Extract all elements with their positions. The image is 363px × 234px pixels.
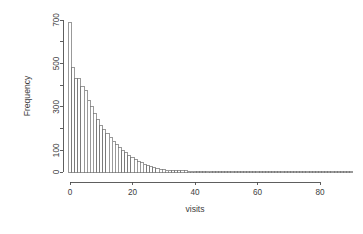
y-axis-title: Frequency [22,75,32,116]
histogram-bar [203,171,206,172]
histogram-bar [125,152,128,172]
x-tick-label: 60 [253,188,263,197]
histogram-bar [81,87,84,172]
histogram-bar [181,171,184,172]
x-tick-label: 40 [190,188,200,197]
histogram-bar [175,171,178,172]
histogram-bar [153,168,156,172]
histogram-bar [134,160,137,172]
histogram-bar [200,171,203,172]
histogram-bar [206,171,209,172]
histogram-bar [187,171,190,172]
y-tick-label: 100 [52,143,61,157]
histogram-bar [112,141,115,172]
histogram-bar [93,114,96,172]
histogram-bar [197,171,200,172]
x-tick-label: 20 [128,188,138,197]
histogram-bar [172,170,175,172]
x-axis-group: 020406080 [68,182,325,197]
histogram-figure: 0100300500700 020406080 visitsFrequency [0,0,363,234]
y-tick-label: 300 [52,100,61,114]
y-axis-group: 0100300500700 [52,13,63,175]
histogram-bar [97,120,100,172]
histogram-bar [90,107,93,172]
histogram-bar [168,170,171,172]
y-tick-label: 700 [52,13,61,27]
histogram-bar [128,155,131,172]
histogram-bar [103,129,106,172]
histogram-bar [209,171,212,172]
histogram-bar [190,171,193,172]
histogram-bar [118,148,121,172]
histogram-bar [106,134,109,172]
histogram-bar [165,170,168,172]
x-tick-label: 0 [68,188,73,197]
histogram-bar [156,169,159,172]
histogram-bar [137,162,140,172]
histogram-bar [115,145,118,172]
histogram-bar [84,90,87,172]
histogram-bar [72,68,75,172]
histogram-bar [159,169,162,172]
histogram-bar [75,78,78,172]
histogram-bar [131,158,134,172]
histogram-bar [122,150,125,172]
histogram-plot: 0100300500700 020406080 visitsFrequency [0,0,363,234]
x-axis-title: visits [185,204,204,214]
histogram-bar [87,100,90,172]
histogram-bar [178,171,181,172]
histogram-bar [193,171,196,172]
histogram-bar [109,137,112,172]
bars-group [68,23,352,172]
histogram-bar [140,163,143,172]
histogram-bar [150,167,153,172]
y-tick-label: 500 [52,56,61,70]
histogram-bar [78,79,81,172]
histogram-bar [100,126,103,172]
histogram-bar [184,171,187,172]
x-tick-label: 80 [315,188,325,197]
histogram-bar [147,166,150,172]
histogram-bar [143,164,146,172]
histogram-bar [162,170,165,172]
y-tick-label: 0 [52,169,61,174]
histogram-bar [68,23,71,172]
